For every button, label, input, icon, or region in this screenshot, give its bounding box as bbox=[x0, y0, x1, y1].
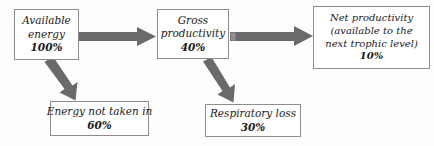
node-energy-not-taken-in-line-1: Energy not taken in bbox=[47, 105, 153, 118]
arrow-gross-to-net bbox=[230, 26, 313, 46]
node-available-energy-value: 100% bbox=[31, 41, 63, 54]
node-net-productivity-line-3: next trophic level) bbox=[325, 38, 418, 51]
node-net-productivity-line-2: (available to the bbox=[330, 25, 412, 38]
node-respiratory-loss: Respiratory loss 30% bbox=[205, 104, 301, 137]
arrow-available-to-gross bbox=[79, 27, 156, 46]
node-available-energy-line-2: energy bbox=[28, 28, 65, 41]
node-energy-not-taken-in: Energy not taken in 60% bbox=[50, 101, 149, 136]
node-gross-productivity-line-1: Gross bbox=[178, 14, 209, 27]
node-net-productivity-value: 10% bbox=[360, 50, 383, 63]
node-gross-productivity: Gross productivity 40% bbox=[157, 9, 229, 59]
arrow-gross-to-respiratory-loss bbox=[203, 57, 235, 103]
node-gross-productivity-line-2: productivity bbox=[161, 27, 225, 40]
node-available-energy: Available energy 100% bbox=[14, 9, 79, 60]
node-energy-not-taken-in-value: 60% bbox=[87, 119, 112, 132]
node-respiratory-loss-line-1: Respiratory loss bbox=[210, 107, 296, 120]
energy-flow-diagram: Available energy 100% Gross productivity… bbox=[0, 0, 434, 146]
node-respiratory-loss-value: 30% bbox=[241, 121, 266, 134]
node-net-productivity: Net productivity (available to the next … bbox=[313, 6, 430, 69]
arrow-available-to-energy-not-taken-in bbox=[45, 57, 78, 101]
node-gross-productivity-value: 40% bbox=[181, 41, 206, 54]
node-net-productivity-line-1: Net productivity bbox=[330, 12, 413, 25]
node-available-energy-line-1: Available bbox=[22, 14, 71, 27]
